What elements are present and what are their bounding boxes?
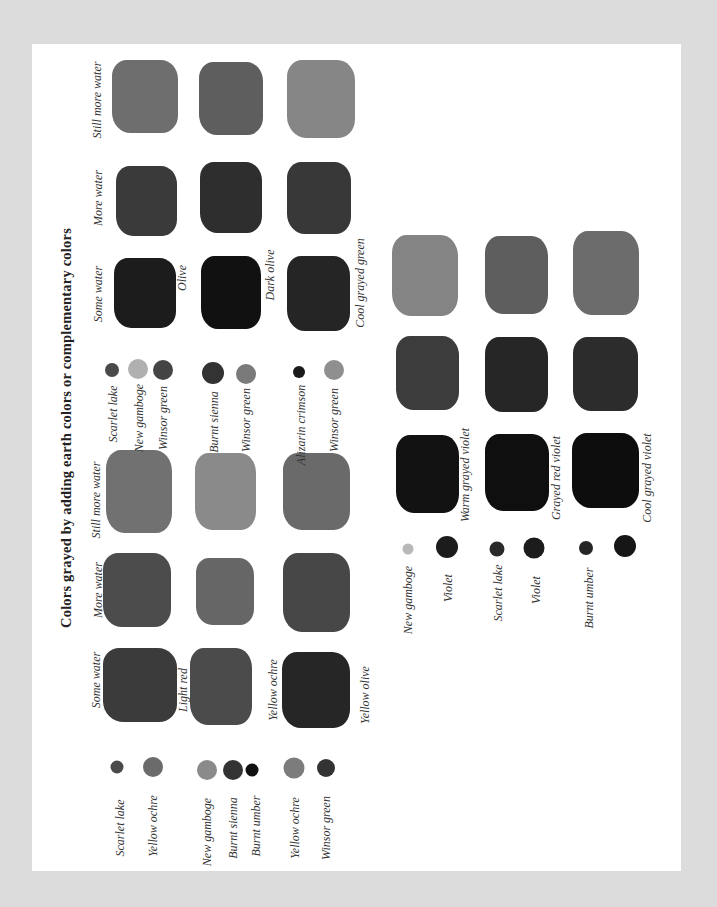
paint-dot-burnt-sienna <box>223 760 243 780</box>
paint-dot-yellow-ochre <box>143 757 163 777</box>
ingredient-label: Alizarin crimson <box>295 385 307 465</box>
paint-dot-scarlet-lake <box>490 542 505 557</box>
page-title: Colors grayed by adding earth colors or … <box>59 228 74 628</box>
result-label-cool-grayed-violet: Cool grayed violet <box>641 433 653 522</box>
swatch-grayed-red-violet-1 <box>485 434 549 511</box>
swatch-olive-more-water <box>116 166 177 236</box>
paint-dot-winsor-green <box>153 360 173 380</box>
swatch-yellow-ochre-still-more-water <box>195 453 256 530</box>
swatch-olive-some-water <box>114 258 176 328</box>
swatch-dark-olive-more-water <box>200 162 262 233</box>
paint-dot-winsor-green <box>324 360 344 380</box>
swatch-dark-olive-some-water <box>201 256 261 329</box>
swatch-yellow-ochre-more-water <box>196 558 254 625</box>
swatch-olive-still-more-water <box>112 60 178 133</box>
result-label-dark-olive: Dark olive <box>264 250 276 301</box>
swatch-cool-grayed-violet-2 <box>573 337 638 411</box>
result-label-yellow-ochre: Yellow ochre <box>267 659 279 720</box>
swatch-warm-grayed-violet-3 <box>392 235 458 316</box>
paint-dot-violet <box>524 538 545 559</box>
paint-dot-violet <box>436 536 458 558</box>
swatch-yellow-olive-some-water <box>282 652 350 728</box>
ingredient-label: Burnt umber <box>583 568 595 629</box>
swatch-cool-grayed-green-some-water <box>287 256 350 331</box>
paint-dot-winsor-green <box>236 364 256 384</box>
ingredient-label: New gamboge <box>133 384 145 452</box>
result-label-warm-grayed-violet: Warm grayed violet <box>459 428 471 522</box>
ingredient-label: Burnt umber <box>250 796 262 857</box>
paint-dot-yellow-ochre <box>284 758 305 779</box>
column-header-some-water: Some water <box>90 652 102 708</box>
paint-dot-burnt-umber <box>579 541 593 555</box>
paint-dot-new-gamboge <box>403 544 414 555</box>
swatch-warm-grayed-violet-1 <box>396 435 459 513</box>
paint-dot-new-gamboge <box>197 760 217 780</box>
swatch-cool-grayed-violet-1 <box>572 433 639 508</box>
column-header-more-water: More water <box>92 170 104 226</box>
paint-dot-scarlet-lake <box>105 363 119 377</box>
paint-dot-burnt-umber <box>246 764 259 777</box>
paint-dot-burnt-sienna <box>202 362 224 384</box>
ingredient-label: Violet <box>530 576 542 604</box>
ingredient-label: Burnt sienna <box>208 391 220 453</box>
ingredient-label: Scarlet lake <box>114 800 126 857</box>
paint-dot-paint <box>614 535 636 557</box>
ingredient-label: Scarlet lake <box>492 565 504 622</box>
ingredient-label: New gamboge <box>402 566 414 634</box>
swatch-cool-grayed-violet-3 <box>573 231 639 315</box>
swatch-light-red-still-more-water <box>106 450 172 533</box>
paint-dot-winsor-green <box>317 759 335 777</box>
ingredient-label: Winsor green <box>157 386 169 450</box>
column-header-some-water: Some water <box>92 266 104 322</box>
swatch-cool-grayed-green-still-more-water <box>287 60 355 138</box>
ingredient-label: Winsor green <box>240 388 252 452</box>
ingredient-label: Winsor green <box>320 796 332 860</box>
result-label-light-red: Light red <box>177 668 189 712</box>
swatch-light-red-more-water <box>103 553 171 627</box>
ingredient-label: New gamboge <box>201 798 213 866</box>
swatch-dark-olive-still-more-water <box>199 62 263 135</box>
swatch-cool-grayed-green-more-water <box>287 162 351 234</box>
swatch-yellow-olive-more-water <box>283 553 350 632</box>
ingredient-label: Yellow ochre <box>147 795 159 856</box>
swatch-grayed-red-violet-3 <box>485 236 548 314</box>
paint-dot-scarlet-lake <box>111 761 124 774</box>
column-header-still-more-water: Still more water <box>90 462 102 539</box>
swatch-warm-grayed-violet-2 <box>396 336 459 410</box>
swatch-grayed-red-violet-2 <box>485 337 548 412</box>
ingredient-label: Violet <box>442 574 454 602</box>
paint-dot-alizarin-crimson <box>293 366 305 378</box>
ingredient-label: Winsor green <box>328 388 340 452</box>
swatch-light-red-some-water <box>103 648 177 722</box>
column-header-still-more-water: Still more water <box>91 62 103 139</box>
swatch-yellow-ochre-some-water <box>190 648 252 725</box>
paint-dot-new-gamboge <box>128 359 148 379</box>
result-label-grayed-red-violet: Grayed red violet <box>550 436 562 520</box>
ingredient-label: Yellow ochre <box>289 797 301 858</box>
ingredient-label: Scarlet lake <box>107 386 119 443</box>
ingredient-label: Burnt sienna <box>227 797 239 859</box>
result-label-olive: Olive <box>176 265 188 291</box>
result-label-cool-grayed-green: Cool grayed green <box>354 238 366 328</box>
result-label-yellow-olive: Yellow olive <box>359 666 371 724</box>
